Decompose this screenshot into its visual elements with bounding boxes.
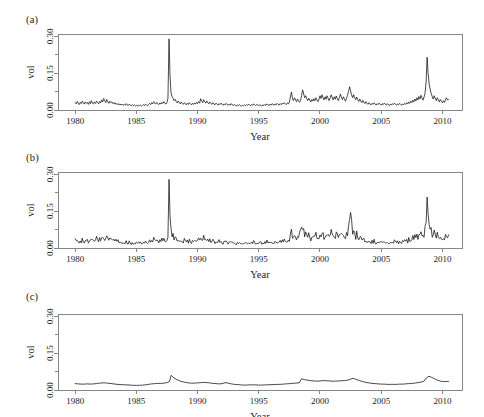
series-line (75, 39, 448, 106)
svg-text:0.00: 0.00 (45, 382, 55, 398)
svg-text:Year: Year (250, 411, 270, 417)
svg-text:1980: 1980 (66, 254, 85, 264)
svg-text:2000: 2000 (311, 116, 330, 126)
svg-text:2005: 2005 (372, 116, 391, 126)
svg-text:2010: 2010 (433, 116, 452, 126)
svg-text:1980: 1980 (66, 396, 85, 406)
svg-text:1985: 1985 (127, 396, 146, 406)
svg-text:2000: 2000 (311, 254, 330, 264)
series-line (75, 179, 448, 244)
panel-a-plot: 0.000.150.301980198519901995200020052010… (0, 0, 484, 140)
svg-text:0.15: 0.15 (45, 203, 55, 219)
svg-text:2010: 2010 (433, 396, 452, 406)
panel-a: (a) 0.000.150.30198019851990199520002005… (0, 0, 484, 140)
svg-text:0.30: 0.30 (45, 28, 55, 44)
svg-text:1985: 1985 (127, 254, 146, 264)
svg-text:vol: vol (25, 203, 36, 217)
svg-text:0.15: 0.15 (45, 65, 55, 81)
svg-text:1990: 1990 (189, 254, 208, 264)
panel-c-plot: 0.000.150.301980198519901995200020052010… (0, 277, 484, 417)
svg-text:0.15: 0.15 (45, 345, 55, 361)
svg-text:2005: 2005 (372, 254, 391, 264)
svg-text:0.30: 0.30 (45, 308, 55, 324)
svg-text:vol: vol (25, 345, 36, 359)
svg-text:1990: 1990 (189, 116, 208, 126)
panel-b: (b) 0.000.150.30198019851990199520002005… (0, 138, 484, 278)
svg-text:1995: 1995 (250, 396, 269, 406)
svg-text:0.30: 0.30 (45, 166, 55, 182)
svg-text:vol: vol (25, 65, 36, 79)
svg-text:1990: 1990 (189, 396, 208, 406)
svg-text:1995: 1995 (250, 254, 269, 264)
svg-text:2005: 2005 (372, 396, 391, 406)
svg-text:2000: 2000 (311, 396, 330, 406)
svg-text:2010: 2010 (433, 254, 452, 264)
panel-c: (c) 0.000.150.30198019851990199520002005… (0, 277, 484, 411)
svg-text:1985: 1985 (127, 116, 146, 126)
svg-text:1980: 1980 (66, 116, 85, 126)
panel-b-plot: 0.000.150.301980198519901995200020052010… (0, 138, 484, 278)
series-line (75, 375, 448, 385)
svg-text:0.00: 0.00 (45, 240, 55, 256)
svg-text:1995: 1995 (250, 116, 269, 126)
svg-text:0.00: 0.00 (45, 102, 55, 118)
